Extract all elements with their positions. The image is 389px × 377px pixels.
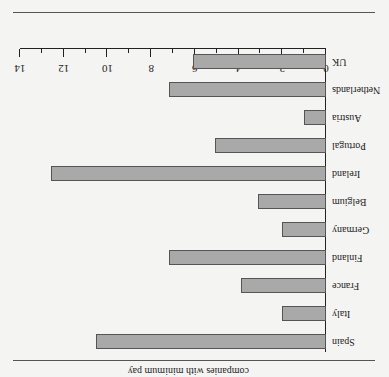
bar: [258, 194, 326, 209]
bottom-rule: [13, 360, 375, 361]
x-tick: [216, 49, 217, 53]
bar: [282, 222, 326, 237]
category-label: UK: [332, 57, 389, 68]
x-tick-label: 10: [97, 63, 117, 75]
category-label: Italy: [332, 309, 389, 320]
chart: 02468101214 UKNetherlandsAustriaPortugal…: [0, 0, 389, 377]
category-label: Germany: [332, 225, 389, 236]
bar: [193, 54, 326, 69]
x-tick-label: 8: [141, 63, 161, 75]
category-label: France: [332, 281, 389, 292]
x-tick: [63, 49, 64, 57]
x-tick: [41, 49, 42, 53]
x-axis-line: [20, 48, 326, 49]
category-label: Austria: [332, 113, 389, 124]
bar: [241, 278, 326, 293]
x-tick: [150, 49, 151, 57]
bar: [169, 250, 326, 265]
caption: companies with minimum pay: [128, 366, 249, 377]
category-label: Netherlands: [332, 85, 389, 96]
category-label: Belgium: [332, 197, 389, 208]
category-label: Portugal: [332, 141, 389, 152]
x-tick: [259, 49, 260, 53]
category-label: Spain: [332, 337, 389, 348]
bar: [169, 82, 326, 97]
category-label: Ireland: [332, 169, 389, 180]
x-tick-label: 14: [10, 63, 30, 75]
x-tick: [106, 49, 107, 57]
x-tick: [172, 49, 173, 53]
top-rule: [13, 12, 375, 13]
bar: [51, 166, 326, 181]
bar: [304, 110, 326, 125]
bar: [282, 306, 326, 321]
bar: [97, 334, 327, 349]
bar: [215, 138, 326, 153]
x-tick: [19, 49, 20, 57]
x-tick-label: 12: [54, 63, 74, 75]
category-label: Finland: [332, 253, 389, 264]
x-tick: [85, 49, 86, 53]
x-tick: [128, 49, 129, 53]
x-tick: [303, 49, 304, 53]
